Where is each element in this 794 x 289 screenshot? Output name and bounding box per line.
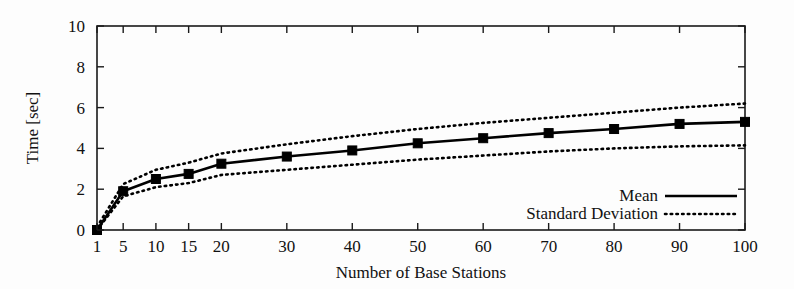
y-tick-label: 10 xyxy=(68,17,85,36)
x-tick-label: 5 xyxy=(119,237,128,256)
legend-label-standard-deviation: Standard Deviation xyxy=(526,204,658,223)
data-point-marker xyxy=(413,139,422,148)
data-point-marker xyxy=(610,125,619,134)
y-tick-label: 0 xyxy=(77,221,86,240)
x-tick-label: 90 xyxy=(671,237,688,256)
chart-figure: 15101520304050607080901000246810 MeanSta… xyxy=(0,0,794,289)
data-point-marker xyxy=(675,119,684,128)
x-tick-label: 100 xyxy=(732,237,758,256)
x-tick-label: 15 xyxy=(180,237,197,256)
data-point-marker xyxy=(217,159,226,168)
data-point-marker xyxy=(184,169,193,178)
x-tick-label: 60 xyxy=(475,237,492,256)
data-point-marker xyxy=(544,129,553,138)
x-axis-title: Number of Base Stations xyxy=(336,263,506,282)
data-point-marker xyxy=(741,117,750,126)
chart-legend: MeanStandard Deviation xyxy=(526,186,737,223)
y-axis-title: Time [sec] xyxy=(23,92,42,165)
x-tick-label: 30 xyxy=(278,237,295,256)
x-tick-label: 80 xyxy=(606,237,623,256)
data-point-marker xyxy=(479,134,488,143)
data-point-marker xyxy=(282,152,291,161)
x-tick-label: 1 xyxy=(93,237,102,256)
y-tick-label: 2 xyxy=(77,180,86,199)
x-tick-label: 20 xyxy=(213,237,230,256)
data-point-marker xyxy=(348,146,357,155)
legend-label-mean: Mean xyxy=(619,186,658,205)
x-tick-label: 40 xyxy=(344,237,361,256)
data-point-marker xyxy=(151,175,160,184)
y-tick-label: 4 xyxy=(77,139,86,158)
x-tick-label: 50 xyxy=(409,237,426,256)
x-tick-label: 70 xyxy=(540,237,557,256)
y-tick-label: 6 xyxy=(77,99,86,118)
x-tick-label: 10 xyxy=(147,237,164,256)
y-tick-label: 8 xyxy=(77,58,86,77)
line-chart: 15101520304050607080901000246810 MeanSta… xyxy=(0,0,794,289)
